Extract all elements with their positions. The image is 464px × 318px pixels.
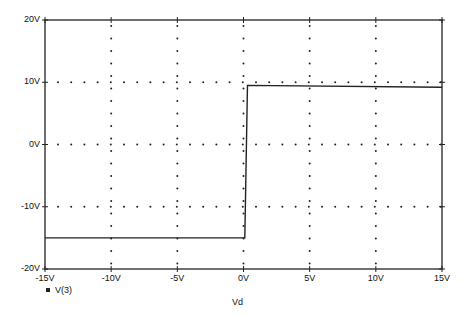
x-tick-label: 10V — [356, 273, 396, 283]
y-tick-label: -20V — [0, 263, 40, 273]
x-tick-label: -10V — [91, 273, 131, 283]
plot-area — [0, 0, 464, 318]
x-tick-label: 5V — [290, 273, 330, 283]
y-tick-label: 10V — [0, 76, 40, 86]
x-tick-label: 0V — [224, 273, 264, 283]
grid-lines — [57, 25, 442, 265]
legend-label: V(3) — [55, 285, 72, 295]
y-tick-label: 0V — [0, 139, 40, 149]
series-v3-trace — [45, 85, 442, 238]
x-tick-label: 15V — [422, 273, 462, 283]
x-tick-label: -5V — [157, 273, 197, 283]
legend-marker-icon — [46, 288, 50, 292]
x-tick-label: -15V — [25, 273, 65, 283]
y-tick-label: -10V — [0, 201, 40, 211]
x-axis-title: Vd — [232, 297, 243, 307]
y-tick-label: 20V — [0, 14, 40, 24]
